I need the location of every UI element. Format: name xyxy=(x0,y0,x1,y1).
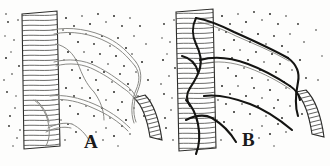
panel-label-b: B xyxy=(242,130,255,149)
illustration-plate: A B xyxy=(0,0,330,166)
plate-drawing xyxy=(0,0,330,166)
panel-label-a: A xyxy=(84,132,98,151)
